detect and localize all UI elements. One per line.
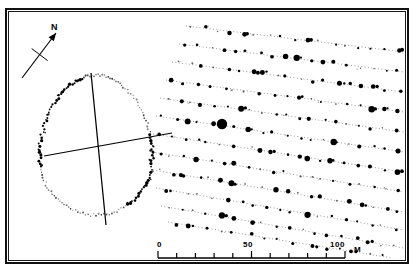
survey-point xyxy=(72,210,73,211)
survey-point xyxy=(38,149,41,152)
survey-point xyxy=(159,169,160,170)
survey-point xyxy=(366,240,370,244)
survey-point xyxy=(197,83,198,84)
survey-point xyxy=(42,125,44,127)
survey-point xyxy=(208,25,209,26)
traverse-line-7 xyxy=(153,134,404,172)
survey-point xyxy=(341,162,342,163)
survey-point xyxy=(371,225,372,226)
survey-point xyxy=(141,188,143,190)
survey-point xyxy=(178,61,180,63)
survey-point xyxy=(386,70,388,72)
survey-point xyxy=(279,35,282,38)
survey-point xyxy=(268,150,273,155)
survey-point xyxy=(143,186,145,188)
survey-point xyxy=(57,97,60,100)
survey-point xyxy=(326,61,327,62)
survey-point xyxy=(109,78,111,80)
survey-point xyxy=(125,205,126,206)
survey-point xyxy=(238,70,240,72)
survey-point xyxy=(250,232,254,236)
survey-point xyxy=(249,109,251,111)
survey-point xyxy=(310,59,313,62)
survey-point xyxy=(265,206,268,209)
survey-point xyxy=(223,162,227,166)
survey-point xyxy=(285,114,287,116)
survey-point xyxy=(298,117,301,120)
transect-ns xyxy=(91,73,106,225)
survey-point xyxy=(380,224,381,225)
survey-point xyxy=(360,202,365,207)
survey-point xyxy=(323,80,324,81)
survey-point xyxy=(45,185,47,187)
survey-point xyxy=(118,209,119,210)
survey-point xyxy=(233,145,234,146)
survey-point xyxy=(341,235,342,236)
survey-point xyxy=(337,81,342,86)
survey-point xyxy=(196,193,198,195)
survey-point xyxy=(127,92,128,93)
traverse-line-3 xyxy=(172,62,404,92)
survey-point xyxy=(261,186,263,188)
survey-point xyxy=(396,189,400,193)
survey-point xyxy=(225,214,228,217)
survey-point xyxy=(111,78,113,80)
survey-point xyxy=(286,189,291,194)
survey-point xyxy=(261,93,262,94)
survey-point xyxy=(262,132,264,134)
enclosure-transect-lines xyxy=(44,73,172,225)
survey-point xyxy=(320,101,322,103)
survey-point xyxy=(373,145,375,147)
survey-point xyxy=(313,232,316,235)
survey-point xyxy=(207,176,209,178)
survey-point xyxy=(230,231,233,234)
survey-point xyxy=(356,236,360,240)
survey-point xyxy=(76,80,79,83)
survey-point xyxy=(251,204,254,207)
survey-point xyxy=(40,136,43,139)
survey-point xyxy=(287,153,290,156)
survey-point xyxy=(356,164,360,168)
survey-point xyxy=(196,121,197,122)
survey-point xyxy=(395,109,399,113)
survey-point xyxy=(331,60,335,64)
survey-point xyxy=(260,51,261,52)
survey-point xyxy=(371,240,374,243)
survey-point xyxy=(51,103,53,105)
survey-point xyxy=(248,166,251,169)
survey-point xyxy=(230,163,231,164)
survey-point xyxy=(349,82,352,85)
survey-point xyxy=(180,99,184,103)
survey-point xyxy=(259,149,260,150)
survey-point xyxy=(274,94,275,95)
survey-point xyxy=(368,127,371,130)
survey-point xyxy=(398,211,399,212)
scale-bar xyxy=(158,251,345,258)
survey-point xyxy=(147,122,149,124)
survey-point xyxy=(113,211,115,213)
survey-point xyxy=(318,102,319,103)
survey-point xyxy=(385,90,386,91)
survey-point xyxy=(245,32,249,36)
survey-point xyxy=(224,232,225,233)
survey-point xyxy=(283,54,288,59)
survey-point xyxy=(41,172,42,173)
survey-point xyxy=(160,153,161,154)
survey-point xyxy=(185,138,188,141)
survey-point xyxy=(105,76,106,77)
survey-point xyxy=(276,226,278,228)
survey-point xyxy=(51,106,52,107)
survey-point xyxy=(310,195,313,198)
survey-point xyxy=(217,31,219,33)
survey-point xyxy=(265,70,267,72)
survey-point xyxy=(384,187,385,188)
survey-point xyxy=(301,95,304,98)
survey-point xyxy=(43,128,45,130)
survey-point xyxy=(243,91,244,92)
survey-point xyxy=(336,141,338,143)
survey-point xyxy=(45,119,47,121)
survey-point xyxy=(399,90,403,94)
survey-point xyxy=(57,94,59,96)
survey-point xyxy=(152,157,154,159)
survey-point xyxy=(234,183,237,186)
